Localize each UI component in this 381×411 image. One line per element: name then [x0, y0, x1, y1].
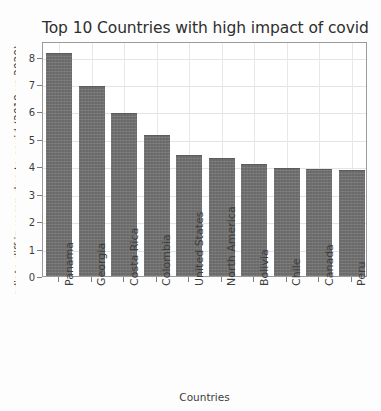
- x-axis-tick-mark: [156, 277, 157, 282]
- y-axis-tick-label: 1: [4, 244, 35, 255]
- y-axis-tick-mark: [37, 195, 42, 196]
- y-axis-tick-label: 4: [4, 162, 35, 173]
- x-axis-label: Countries: [42, 391, 367, 403]
- y-axis-tick-label: 2: [4, 217, 35, 228]
- x-axis-tick-label: Bolivia: [258, 249, 271, 286]
- x-axis-tick-label: Canada: [323, 244, 336, 286]
- x-axis-tick-label: Costa Rica: [128, 228, 141, 286]
- y-axis-tick-label: 8: [4, 52, 35, 63]
- y-axis-tick-mark: [37, 250, 42, 251]
- y-axis-tick-mark: [37, 112, 42, 113]
- y-axis-tick-mark: [37, 277, 42, 278]
- x-axis-tick-label: North America: [225, 206, 238, 286]
- bar: [339, 170, 365, 276]
- x-axis-tick-mark: [253, 277, 254, 282]
- x-axis-tick-label: Chile: [290, 258, 303, 286]
- y-axis-tick-mark: [37, 167, 42, 168]
- y-axis-tick-mark: [37, 222, 42, 223]
- x-axis-tick-mark: [221, 277, 222, 282]
- x-axis-tick-label: Colombia: [160, 234, 173, 286]
- x-axis-tick-mark: [188, 277, 189, 282]
- y-axis-tick-label: 7: [4, 80, 35, 91]
- x-axis-tick-label: Georgia: [95, 243, 108, 286]
- y-axis-tick-label: 0: [4, 272, 35, 283]
- x-axis-tick-mark: [91, 277, 92, 282]
- chart-figure: Top 10 Countries with high impact of cov…: [0, 0, 381, 411]
- x-axis-tick-mark: [351, 277, 352, 282]
- y-axis-tick-label: 5: [4, 134, 35, 145]
- x-axis-tick-label: United States: [193, 212, 206, 287]
- x-axis-tick-mark: [123, 277, 124, 282]
- x-axis-tick-label: Panama: [63, 242, 76, 286]
- x-axis-tick-mark: [318, 277, 319, 282]
- y-axis-tick-label: 6: [4, 107, 35, 118]
- chart-title: Top 10 Countries with high impact of cov…: [42, 18, 367, 38]
- y-axis-tick-mark: [37, 140, 42, 141]
- y-axis-tick-label: 3: [4, 189, 35, 200]
- y-axis-tick-mark: [37, 85, 42, 86]
- x-axis-tick-mark: [58, 277, 59, 282]
- x-axis-tick-label: Peru: [355, 261, 368, 286]
- x-axis-tick-mark: [286, 277, 287, 282]
- y-axis-tick-mark: [37, 58, 42, 59]
